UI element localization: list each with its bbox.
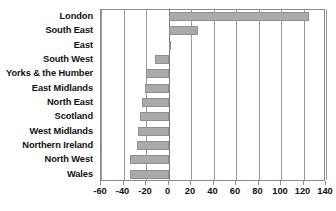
x-tick-label: 0 [165, 186, 170, 196]
x-tick-label: 40 [207, 186, 217, 196]
x-tick-label: 140 [317, 186, 333, 196]
x-tick-label: -20 [138, 186, 151, 196]
plot-area [100, 9, 325, 181]
x-tick [258, 181, 259, 185]
bar [155, 55, 169, 64]
bar-row [101, 67, 324, 81]
bar-row [101, 96, 324, 110]
x-tick [123, 181, 124, 185]
bar [137, 141, 169, 150]
category-label: East Midlands [0, 81, 97, 95]
bar [140, 112, 168, 121]
x-tick [213, 181, 214, 185]
bar [146, 69, 169, 78]
bar-row [101, 125, 324, 139]
x-tick [190, 181, 191, 185]
bar-series [101, 10, 324, 180]
bar-chart: LondonSouth EastEastSouth WestYorks & th… [0, 0, 336, 211]
bar [145, 84, 169, 93]
x-tick [303, 181, 304, 185]
category-label: West Midlands [0, 124, 97, 138]
x-axis-tick-labels: -60-40-20020406080100120140 [100, 186, 325, 202]
category-label: South East [0, 23, 97, 37]
bar [138, 127, 168, 136]
category-label: London [0, 9, 97, 23]
x-tick-label: 120 [295, 186, 311, 196]
x-tick-label: 20 [185, 186, 195, 196]
x-tick [145, 181, 146, 185]
x-tick-label: 60 [230, 186, 240, 196]
bar-row [101, 24, 324, 38]
category-axis-labels: LondonSouth EastEastSouth WestYorks & th… [0, 9, 97, 181]
bar [169, 12, 310, 21]
x-tick [235, 181, 236, 185]
category-label: South West [0, 52, 97, 66]
category-label: Scotland [0, 109, 97, 123]
category-label: North West [0, 152, 97, 166]
bar [169, 26, 198, 35]
bar-row [101, 153, 324, 167]
bar-row [101, 39, 324, 53]
bar [130, 155, 168, 164]
x-tick-label: 80 [252, 186, 262, 196]
x-tick-label: -60 [93, 186, 106, 196]
x-tick-label: -40 [116, 186, 129, 196]
x-tick-label: 100 [272, 186, 288, 196]
category-label: Yorks & the Humber [0, 66, 97, 80]
gridline [326, 10, 327, 180]
bar [130, 170, 168, 179]
bar-row [101, 82, 324, 96]
bar-row [101, 10, 324, 24]
bar-row [101, 53, 324, 67]
category-label: East [0, 38, 97, 52]
bar-row [101, 139, 324, 153]
bar [169, 41, 171, 50]
x-tick [168, 181, 169, 185]
bar-row [101, 168, 324, 182]
category-label: Northern Ireland [0, 138, 97, 152]
x-tick [325, 181, 326, 185]
category-label: North East [0, 95, 97, 109]
x-tick [100, 181, 101, 185]
category-label: Wales [0, 167, 97, 181]
bar-row [101, 110, 324, 124]
bar [142, 98, 169, 107]
x-tick [280, 181, 281, 185]
